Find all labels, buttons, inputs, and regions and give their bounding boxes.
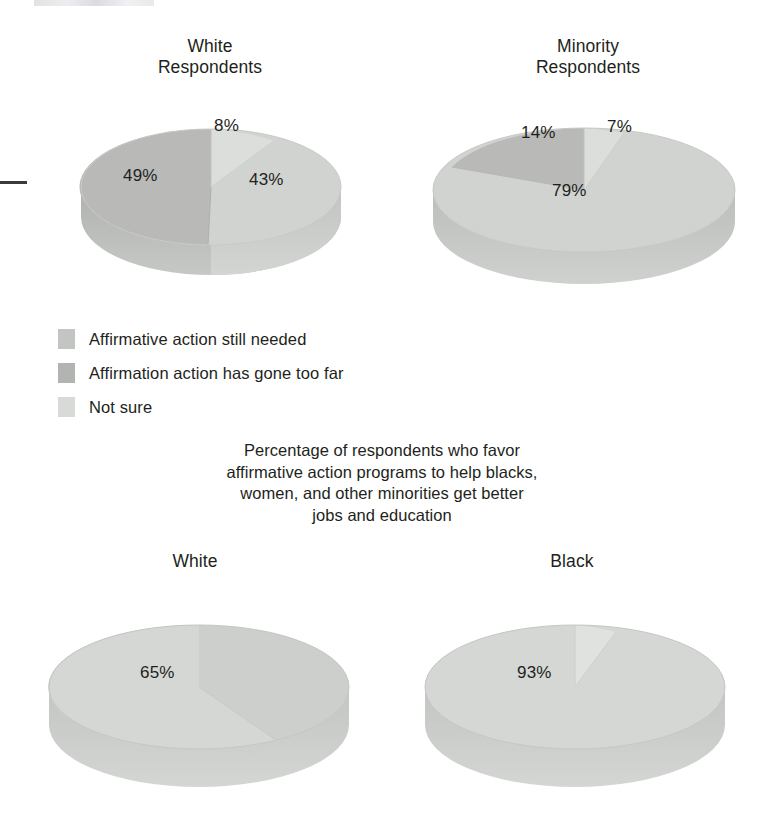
pie-chart-black-favor <box>420 595 730 790</box>
pie-svg-white-respondents <box>78 95 344 280</box>
chart-title-white-respondents: White Respondents <box>110 36 310 78</box>
chart-caption: Percentage of respondents who favor affi… <box>132 440 632 526</box>
legend-swatch-still-needed <box>58 329 75 349</box>
legend-item-not-sure: Not sure <box>58 390 578 424</box>
pie-chart-white-respondents <box>78 95 344 280</box>
legend-label-gone-too-far: Affirmation action has gone too far <box>89 364 344 383</box>
legend-item-gone-too-far: Affirmation action has gone too far <box>58 356 578 390</box>
pie-label-black-favor-93: 93% <box>517 663 552 683</box>
pie-label-minority-7: 7% <box>607 117 632 137</box>
left-edge-rule <box>0 181 27 184</box>
legend-item-still-needed: Affirmative action still needed <box>58 322 578 356</box>
pie-label-white-49: 49% <box>123 166 158 186</box>
legend-label-not-sure: Not sure <box>89 398 152 417</box>
pie-label-white-8: 8% <box>214 116 239 136</box>
pie-label-minority-14: 14% <box>521 123 556 143</box>
pie-svg-white-favor <box>44 595 354 790</box>
chart-title-black: Black <box>472 551 672 572</box>
legend: Affirmative action still needed Affirmat… <box>58 322 578 424</box>
legend-swatch-not-sure <box>58 397 75 417</box>
pie-svg-black-favor <box>420 595 730 790</box>
chart-title-white: White <box>95 551 295 572</box>
chart-title-minority-respondents: Minority Respondents <box>478 36 698 78</box>
page-top-crop-artifact <box>34 0 154 6</box>
legend-swatch-gone-too-far <box>58 363 75 383</box>
pie-label-white-favor-65: 65% <box>140 663 175 683</box>
pie-chart-white-favor <box>44 595 354 790</box>
pie-label-white-43: 43% <box>249 170 284 190</box>
legend-label-still-needed: Affirmative action still needed <box>89 330 306 349</box>
pie-label-minority-79: 79% <box>552 181 587 201</box>
